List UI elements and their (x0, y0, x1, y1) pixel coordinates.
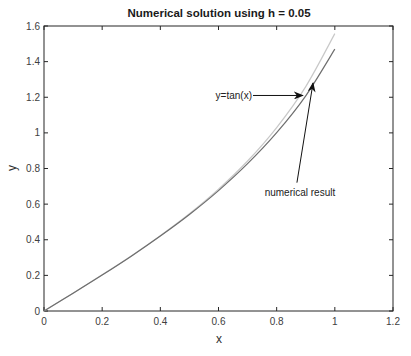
axes-box (44, 26, 393, 311)
y-tick-label: 1.6 (26, 21, 40, 32)
y-tick-label: 1.2 (26, 92, 40, 103)
chart-figure: Numerical solution using h = 0.05 00.20.… (0, 0, 411, 356)
y-axis-label: y (5, 165, 19, 171)
annotation-text: y=tan(x) (216, 90, 252, 101)
y-tick-label: 0.2 (26, 270, 40, 281)
x-tick-label: 1.2 (386, 316, 400, 327)
y-tick-label: 0.6 (26, 199, 40, 210)
y-tick-label: 1.4 (26, 56, 40, 67)
x-tick-label: 0 (41, 316, 47, 327)
y-tick-label: 1 (34, 127, 40, 138)
chart-title: Numerical solution using h = 0.05 (127, 7, 311, 19)
x-tick-label: 0.4 (153, 316, 167, 327)
y-tick-label: 0.4 (26, 234, 40, 245)
x-tick-label: 0.6 (212, 316, 226, 327)
x-axis-label: x (216, 332, 222, 346)
annotation-text: numerical result (265, 187, 336, 198)
x-tick-label: 0.2 (95, 316, 109, 327)
plot-area (44, 26, 393, 311)
y-tick-label: 0.8 (26, 163, 40, 174)
x-tick-label: 0.8 (270, 316, 284, 327)
y-tick-label: 0 (34, 306, 40, 317)
x-tick-label: 1 (332, 316, 338, 327)
